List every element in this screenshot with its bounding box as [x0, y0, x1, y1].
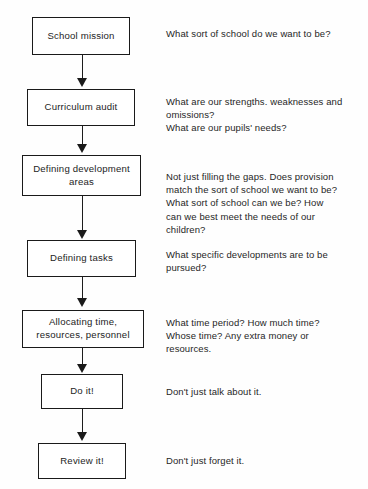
connector-3-4: [82, 196, 83, 232]
flowchart-note-curriculum-audit: What are our strengths. weaknesses and o…: [166, 95, 366, 135]
flowchart-note-allocating-resources: What time period? How much time? Whose t…: [166, 316, 366, 356]
node-label: Defining tasks: [50, 252, 113, 265]
arrowhead-5-6: [77, 364, 87, 373]
arrowhead-1-2: [77, 78, 87, 87]
node-label: School mission: [47, 30, 114, 43]
flowchart-note-do-it: Don't just talk about it.: [166, 385, 366, 398]
node-label: Review it!: [60, 455, 104, 468]
connector-6-7: [82, 409, 83, 434]
flowchart-node-curriculum-audit: Curriculum audit: [27, 89, 135, 126]
connector-2-3: [82, 126, 83, 146]
connector-4-5: [82, 277, 83, 300]
connector-1-2: [82, 55, 83, 80]
flowchart-diagram: School mission What sort of school do we…: [0, 0, 368, 489]
arrowhead-4-5: [77, 298, 87, 307]
flowchart-note-review-it: Don't just forget it.: [166, 454, 366, 467]
flowchart-node-defining-tasks: Defining tasks: [27, 240, 136, 277]
flowchart-node-allocating-resources: Allocating time, resources, personnel: [22, 310, 144, 348]
flowchart-note-defining-development-areas: Not just filling the gaps. Does provisio…: [166, 170, 366, 236]
flowchart-node-do-it: Do it!: [41, 374, 123, 409]
arrowhead-6-7: [77, 432, 87, 441]
flowchart-note-school-mission: What sort of school do we want to be?: [166, 27, 366, 40]
flowchart-node-review-it: Review it!: [38, 443, 126, 479]
flowchart-node-defining-development-areas: Defining development areas: [22, 155, 141, 196]
node-label: Allocating time, resources, personnel: [36, 316, 129, 341]
node-label: Curriculum audit: [45, 101, 118, 114]
arrowhead-3-4: [77, 230, 87, 239]
flowchart-note-defining-tasks: What specific developments are to be pur…: [166, 248, 366, 274]
arrowhead-2-3: [77, 144, 87, 153]
node-label: Do it!: [70, 385, 94, 398]
flowchart-node-school-mission: School mission: [32, 17, 130, 55]
node-label: Defining development areas: [33, 163, 130, 188]
